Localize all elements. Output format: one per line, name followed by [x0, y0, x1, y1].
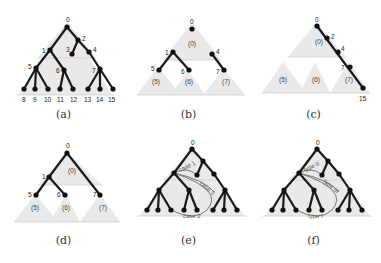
node-label: 7	[216, 68, 220, 75]
node-label: 6	[56, 67, 60, 74]
panel-b: 014567(0)(5)(6)(7)(b)	[125, 0, 252, 130]
node-label: 1	[165, 49, 169, 56]
tree-node	[85, 86, 90, 91]
tree-node	[64, 24, 69, 29]
node-label: 2	[82, 35, 86, 42]
subtree-label: (6)	[185, 78, 193, 86]
tree-node	[200, 158, 205, 163]
panel-caption: (d)	[0, 234, 127, 247]
tree-node	[335, 49, 340, 54]
case-label: type I	[308, 213, 323, 219]
panel-c: 024715(0)(5)(6)(7)(c)	[250, 0, 377, 130]
tree-node	[170, 49, 175, 54]
tree-node	[319, 207, 324, 212]
tree-node	[33, 65, 38, 70]
tree-node	[346, 207, 351, 212]
tree-node	[221, 67, 226, 72]
node-label: 0	[316, 139, 320, 146]
subtree-label: (6)	[312, 76, 320, 84]
tree-node	[45, 86, 50, 91]
subtree-label: (5)	[279, 76, 287, 84]
tree-node	[171, 170, 176, 175]
tree-node	[97, 192, 102, 197]
subtree-label: (7)	[345, 76, 353, 84]
node-label: 15	[359, 95, 367, 102]
tree-node	[347, 64, 352, 69]
node-label: 5	[28, 63, 32, 70]
tree-node	[280, 207, 285, 212]
node-label: 0	[315, 16, 319, 23]
tree-node	[221, 207, 226, 212]
subtree-label: (5)	[31, 204, 39, 212]
tree-edge	[35, 68, 36, 89]
subtree-label: (0)	[68, 167, 76, 175]
node-label: 9	[33, 96, 37, 103]
panel-e: 0case 1case 3case 2(e)	[125, 130, 252, 260]
tree-node	[156, 67, 161, 72]
panel-d: 01567(0)(5)(6)(7)(d)	[0, 130, 127, 260]
node-label: 12	[70, 96, 78, 103]
tree-edge	[158, 190, 159, 210]
node-label: 14	[96, 96, 104, 103]
tree-node	[64, 150, 69, 155]
tree-node	[155, 207, 160, 212]
tree-node	[181, 207, 186, 212]
tree-node	[306, 207, 311, 212]
tree-node	[189, 146, 194, 151]
node-label: 5	[151, 65, 155, 72]
tree-node	[70, 86, 75, 91]
panel-caption: (e)	[125, 234, 252, 247]
tree-node	[347, 187, 352, 192]
tree-edge	[349, 190, 350, 210]
tree-edge	[224, 190, 225, 210]
tree-node	[57, 86, 62, 91]
subtree-label: (0)	[188, 40, 196, 48]
node-label: 6	[181, 68, 185, 75]
node-label: 4	[341, 45, 345, 52]
tree-node	[325, 158, 330, 163]
node-label: 6	[57, 191, 61, 198]
tree-node	[211, 171, 216, 176]
tree-node	[110, 86, 115, 91]
node-label: 0	[191, 139, 195, 146]
panel-caption: (c)	[250, 108, 377, 121]
panel-f: 0type IItype IIItype I(f)	[250, 130, 377, 260]
tree-node	[62, 192, 67, 197]
subtree-label: (6)	[62, 204, 70, 212]
panel-caption: (f)	[250, 234, 377, 247]
subtree-label: (0)	[315, 38, 323, 46]
tree-node	[32, 86, 37, 91]
tree-edge	[283, 190, 284, 210]
node-label: 5	[28, 191, 32, 198]
node-label: 7	[93, 191, 97, 198]
tree-node	[33, 192, 38, 197]
tree-node	[335, 207, 340, 212]
panel-a: 0123456789101112131415(a)	[0, 0, 127, 130]
node-label: 4	[216, 48, 220, 55]
node-label: 15	[108, 96, 116, 103]
subtree-label: (5)	[152, 78, 160, 86]
node-label: 0	[66, 16, 70, 23]
node-label: 4	[93, 46, 97, 53]
node-label: 1	[42, 47, 46, 54]
panel-caption: (a)	[0, 108, 127, 121]
tree-node	[97, 86, 102, 91]
tree-node	[21, 86, 26, 91]
node-label: 3	[66, 46, 70, 53]
tree-node	[359, 207, 364, 212]
node-label: 7	[92, 67, 96, 74]
subtree-label: (7)	[222, 78, 230, 86]
tree-node	[296, 170, 301, 175]
node-label: 2	[331, 33, 335, 40]
tree-node	[222, 187, 227, 192]
tree-node	[69, 51, 74, 56]
node-label: 1	[42, 173, 46, 180]
node-label: 10	[44, 96, 52, 103]
tree-node	[360, 85, 365, 90]
tree-node	[281, 187, 286, 192]
tree-node	[210, 207, 215, 212]
node-label: 7	[341, 64, 345, 71]
tree-node	[319, 172, 324, 177]
case-label: case 2	[183, 213, 201, 219]
tree-node	[186, 187, 191, 192]
